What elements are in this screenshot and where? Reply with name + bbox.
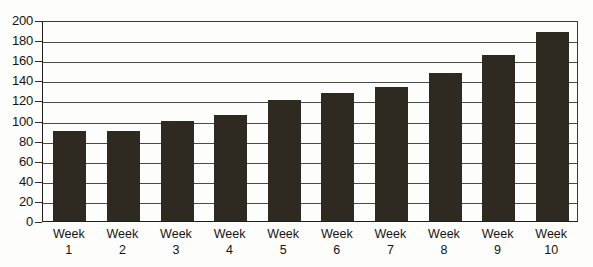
x-axis-label-line2: 2 bbox=[96, 242, 150, 258]
y-axis-tick-label: 180 bbox=[0, 34, 33, 47]
y-axis-tick-label: 40 bbox=[0, 175, 33, 188]
x-axis-label-line1: Week bbox=[482, 227, 514, 241]
y-axis-tick-mark bbox=[35, 122, 42, 123]
y-axis-tick-mark bbox=[35, 81, 42, 82]
bar bbox=[482, 55, 515, 221]
x-axis-label-line1: Week bbox=[53, 227, 85, 241]
y-axis-tick-labels: 020406080100120140160180200 bbox=[0, 0, 33, 267]
bar-series bbox=[43, 22, 577, 221]
bar bbox=[536, 32, 569, 221]
x-axis-label-line1: Week bbox=[321, 227, 353, 241]
x-axis-tick-label: Week5 bbox=[256, 226, 310, 258]
y-axis-tick-mark bbox=[35, 21, 42, 22]
x-axis-tick-label: Week1 bbox=[42, 226, 96, 258]
x-axis-label-line2: 1 bbox=[42, 242, 96, 258]
x-axis-tick-label: Week7 bbox=[364, 226, 418, 258]
y-axis-tick-label: 160 bbox=[0, 54, 33, 67]
bar-chart: 020406080100120140160180200 Week1Week2We… bbox=[0, 0, 593, 267]
y-axis-tick-mark bbox=[35, 222, 42, 223]
y-axis-tick-label: 100 bbox=[0, 115, 33, 128]
y-axis-tick-mark bbox=[35, 101, 42, 102]
y-axis-tick-label: 0 bbox=[0, 215, 33, 228]
y-axis-tick-label: 140 bbox=[0, 74, 33, 87]
x-axis-tick-labels: Week1Week2Week3Week4Week5Week6Week7Week8… bbox=[42, 226, 578, 267]
bar bbox=[161, 121, 194, 222]
x-axis-tick-label: Week9 bbox=[471, 226, 525, 258]
bar bbox=[375, 87, 408, 221]
y-axis-tick-mark bbox=[35, 162, 42, 163]
x-axis-label-line2: 8 bbox=[417, 242, 471, 258]
bar bbox=[268, 100, 301, 221]
x-axis-tick-label: Week8 bbox=[417, 226, 471, 258]
x-axis-tick-label: Week6 bbox=[310, 226, 364, 258]
x-axis-label-line2: 10 bbox=[524, 242, 578, 258]
x-axis-label-line1: Week bbox=[107, 227, 139, 241]
x-axis-label-line1: Week bbox=[160, 227, 192, 241]
x-axis-label-line1: Week bbox=[214, 227, 246, 241]
x-axis-label-line2: 6 bbox=[310, 242, 364, 258]
x-axis-label-line1: Week bbox=[428, 227, 460, 241]
plot-area bbox=[42, 21, 578, 222]
y-axis-tick-label: 80 bbox=[0, 135, 33, 148]
bar bbox=[107, 131, 140, 221]
x-axis-label-line1: Week bbox=[535, 227, 567, 241]
bar bbox=[214, 115, 247, 221]
x-axis-label-line2: 7 bbox=[364, 242, 418, 258]
y-axis-tick-label: 120 bbox=[0, 94, 33, 107]
x-axis-label-line2: 4 bbox=[203, 242, 257, 258]
y-axis-tick-mark bbox=[35, 41, 42, 42]
y-axis-tick-mark bbox=[35, 61, 42, 62]
y-axis-tick-mark bbox=[35, 142, 42, 143]
y-axis-tick-label: 20 bbox=[0, 195, 33, 208]
y-axis-tick-label: 60 bbox=[0, 155, 33, 168]
y-axis-tick-mark bbox=[35, 182, 42, 183]
y-axis-tick-label: 200 bbox=[0, 14, 33, 27]
x-axis-tick-label: Week2 bbox=[96, 226, 150, 258]
x-axis-label-line2: 5 bbox=[256, 242, 310, 258]
x-axis-label-line2: 3 bbox=[149, 242, 203, 258]
x-axis-label-line2: 9 bbox=[471, 242, 525, 258]
x-axis-tick-label: Week4 bbox=[203, 226, 257, 258]
x-axis-label-line1: Week bbox=[375, 227, 407, 241]
x-axis-label-line1: Week bbox=[267, 227, 299, 241]
bar bbox=[53, 131, 86, 221]
bar bbox=[321, 93, 354, 221]
x-axis-tick-label: Week10 bbox=[524, 226, 578, 258]
bar bbox=[429, 73, 462, 221]
x-axis-tick-label: Week3 bbox=[149, 226, 203, 258]
y-axis-tick-mark bbox=[35, 202, 42, 203]
